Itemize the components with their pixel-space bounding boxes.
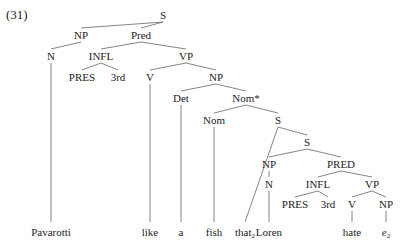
tree-node-label: Nom: [203, 114, 225, 126]
tree-edge: [101, 42, 141, 49]
tree-edge: [295, 191, 318, 197]
tree-node-label: VP: [365, 178, 379, 190]
tree-edge: [318, 171, 341, 177]
tree-edge: [150, 63, 186, 70]
tree-node-label: INFL: [306, 178, 331, 190]
tree-edge: [278, 127, 307, 135]
tree-node-label: Nom*: [232, 92, 260, 104]
tree-edge: [101, 63, 118, 70]
terminal-word: like: [142, 226, 159, 238]
tree-edge: [372, 191, 386, 197]
terminal-word: Pavarotti: [31, 226, 71, 238]
tree-node-label: V: [146, 71, 154, 83]
tree-node-label: N: [47, 50, 55, 62]
tree-edge: [246, 105, 278, 113]
example-number: (31): [6, 7, 28, 22]
terminal-word: e2: [382, 226, 391, 240]
tree-edge: [269, 149, 307, 157]
tree-node-label: 3rd: [111, 71, 126, 83]
tree-edge: [307, 149, 341, 157]
tree-node-label: NP: [379, 198, 393, 210]
tree-node-label: NP: [74, 29, 88, 41]
terminal-word: fish: [206, 226, 223, 238]
tree-edge: [216, 84, 246, 91]
tree-node-label: Pred: [131, 29, 152, 41]
tree-edge: [245, 127, 278, 222]
tree-node-label: N: [265, 178, 273, 190]
tree-edge: [352, 191, 372, 197]
tree-edge: [82, 63, 101, 70]
tree-edge: [341, 171, 372, 177]
tree-node-label: S: [304, 136, 310, 148]
terminal-word: hate: [343, 226, 361, 238]
tree-edge: [181, 84, 216, 91]
tree-node-label: INFL: [89, 50, 114, 62]
tree-node-label: PRES: [282, 198, 308, 210]
tree-node-label: S: [275, 114, 281, 126]
tree-node-label: VP: [179, 50, 193, 62]
tree-edge: [318, 191, 328, 197]
tree-edge: [141, 42, 186, 49]
tree-nodes: SNPPredNINFLVPPRES3rdVNPDetNom*NomSSNPPR…: [31, 9, 393, 240]
tree-edge: [186, 63, 216, 70]
tree-node-label: 3rd: [321, 198, 336, 210]
terminal-word: that2: [235, 226, 256, 240]
tree-node-label: NP: [262, 158, 276, 170]
tree-node-label: Det: [173, 92, 189, 104]
tree-node-label: PRED: [327, 158, 355, 170]
tree-node-label: PRES: [69, 71, 95, 83]
terminal-word: a: [179, 226, 184, 238]
terminal-word: Loren: [256, 226, 283, 238]
tree-node-label: NP: [209, 71, 223, 83]
tree-edge: [214, 105, 246, 113]
tree-node-label: S: [160, 9, 166, 21]
tree-node-label: V: [348, 198, 356, 210]
tree-canvas: SNPPredNINFLVPPRES3rdVNPDetNom*NomSSNPPR…: [0, 0, 400, 244]
tree-edge: [51, 42, 81, 49]
